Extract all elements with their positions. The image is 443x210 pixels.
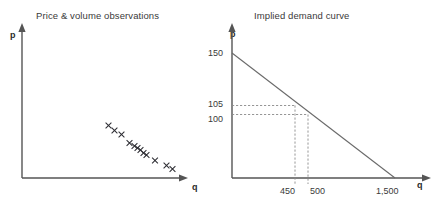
- demand-guide-450-105: [232, 106, 295, 185]
- scatter-data-markers: [106, 123, 176, 172]
- scatter-x-axis: [22, 174, 188, 181]
- demand-guide-500-100: [232, 115, 308, 185]
- panel-implied-demand-curve: Implied demand curve p q 150 105 100 450…: [221, 0, 443, 210]
- scatter-y-axis: [18, 23, 25, 178]
- scatter-plot-svg: [0, 0, 221, 210]
- panel-price-volume-observations: Price & volume observations p q: [0, 0, 221, 210]
- demand-x-axis: [232, 174, 431, 181]
- demand-curve-line: [232, 53, 395, 178]
- demand-plot-svg: [221, 0, 443, 210]
- two-panel-figure: Price & volume observations p q: [0, 0, 443, 210]
- demand-y-axis: [228, 23, 235, 178]
